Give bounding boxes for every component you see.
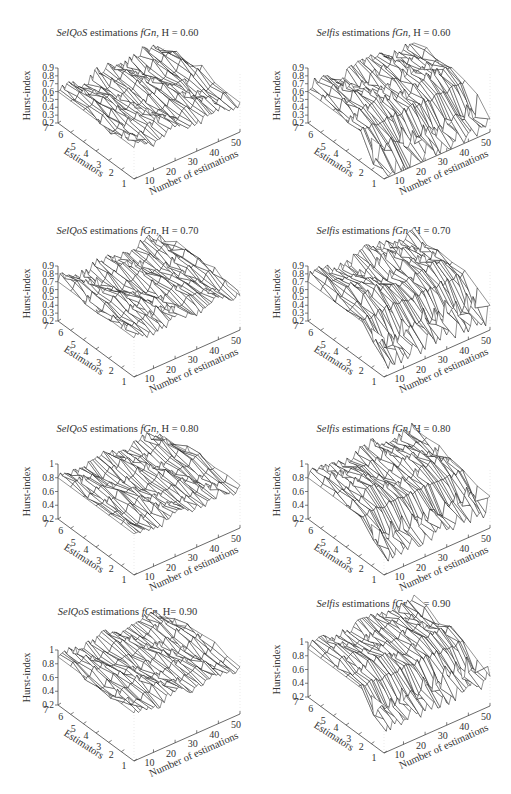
z-tick-label: 0.9 xyxy=(292,261,304,271)
estimator-tick-label: 2 xyxy=(109,365,114,376)
estimator-tick-label: 1 xyxy=(372,752,377,763)
estimator-tick-label: 6 xyxy=(58,129,63,140)
estimator-tick-label: 7 xyxy=(44,518,49,529)
estimator-tick-label: 6 xyxy=(58,525,63,536)
estimator-tick-label: 2 xyxy=(359,365,364,376)
estimator-tick-label: 1 xyxy=(372,178,377,189)
z-tick-label: 1 xyxy=(49,645,54,655)
chart-panel-selfis-090: Selfis estimations fGn, H = 0.90 0.20.40… xyxy=(256,594,511,792)
x-tick-label: 50 xyxy=(231,533,241,544)
z-axis-label: Hurst-index xyxy=(21,466,32,517)
surface-plot: 0.20.30.40.50.60.70.80.9Hurst-index76543… xyxy=(256,198,511,396)
estimator-tick-label: 2 xyxy=(109,167,114,178)
z-tick-label: 0.6 xyxy=(42,673,54,683)
surface-plot: 0.20.40.60.81Hurst-index7654321Estimator… xyxy=(256,594,511,792)
z-tick-label: 0.8 xyxy=(42,473,54,483)
z-axis-label: Hurst-index xyxy=(271,70,282,121)
surface-plot: 0.20.30.40.50.60.70.80.9Hurst-index76543… xyxy=(0,198,255,396)
estimator-tick-label: 7 xyxy=(44,320,49,331)
x-tick-label: 50 xyxy=(481,711,491,722)
z-axis-label: Hurst-index xyxy=(271,268,282,319)
z-tick-label: 0.8 xyxy=(292,651,304,661)
z-axis-label: Hurst-index xyxy=(21,70,32,121)
x-tick-label: 50 xyxy=(231,335,241,346)
estimator-tick-label: 2 xyxy=(359,741,364,752)
chart-panel-selfis-060: Selfis estimations fGn, H = 0.60 0.20.30… xyxy=(256,0,511,198)
estimator-tick-label: 6 xyxy=(308,129,313,140)
chart-panel-selfis-080: Selfis estimations fGn, H = 0.80 0.20.40… xyxy=(256,396,511,594)
x-axis-label: Number of estimations xyxy=(147,730,239,779)
estimator-tick-label: 6 xyxy=(58,327,63,338)
wireframe-surface xyxy=(58,45,240,148)
z-tick-label: 0.9 xyxy=(42,261,54,271)
estimator-tick-label: 2 xyxy=(109,563,114,574)
wireframe-surface xyxy=(308,595,490,731)
z-tick-label: 1 xyxy=(49,459,54,469)
surface-plot: 0.20.40.60.81Hurst-index7654321Estimator… xyxy=(256,396,511,594)
x-axis-label: Number of estimations xyxy=(397,722,489,771)
estimator-tick-label: 1 xyxy=(372,376,377,387)
z-tick-label: 0.9 xyxy=(42,63,54,73)
x-tick-label: 50 xyxy=(481,533,491,544)
estimator-tick-label: 2 xyxy=(109,749,114,760)
estimator-tick-label: 7 xyxy=(294,122,299,133)
z-tick-label: 0.6 xyxy=(42,487,54,497)
estimator-tick-label: 1 xyxy=(122,376,127,387)
estimator-tick-label: 1 xyxy=(122,760,127,771)
chart-panel-selqos-090: SelQoS estimations fGn, H= 0.90 0.20.40.… xyxy=(0,594,255,792)
estimator-tick-label: 1 xyxy=(122,178,127,189)
chart-panel-selqos-070: SelQoS estimations fGn, H = 0.70 0.20.30… xyxy=(0,198,255,396)
estimator-tick-label: 7 xyxy=(294,518,299,529)
estimator-tick-label: 6 xyxy=(308,525,313,536)
chart-panel-selqos-060: SelQoS estimations fGn, H = 0.60 0.20.30… xyxy=(0,0,255,198)
estimator-tick-label: 2 xyxy=(359,563,364,574)
z-tick-label: 0.8 xyxy=(292,473,304,483)
z-tick-label: 0.6 xyxy=(292,665,304,675)
estimator-tick-label: 1 xyxy=(122,574,127,585)
surface-plot: 0.20.30.40.50.60.70.80.9Hurst-index76543… xyxy=(256,0,511,198)
x-tick-label: 50 xyxy=(231,719,241,730)
chart-panel-selfis-070: Selfis estimations fGn, H = 0.70 0.20.30… xyxy=(256,198,511,396)
estimator-tick-label: 7 xyxy=(294,696,299,707)
z-axis-label: Hurst-index xyxy=(21,268,32,319)
x-axis-label: Number of estimations xyxy=(147,544,239,593)
x-tick-label: 50 xyxy=(481,137,491,148)
estimator-tick-label: 6 xyxy=(58,711,63,722)
z-tick-label: 0.4 xyxy=(292,678,304,688)
z-tick-label: 0.4 xyxy=(42,686,54,696)
surface-plot: 0.20.40.60.81Hurst-index7654321Estimator… xyxy=(0,396,255,594)
estimator-tick-label: 6 xyxy=(308,703,313,714)
wireframe-surface xyxy=(58,433,240,534)
z-axis-label: Hurst-index xyxy=(271,466,282,517)
estimator-tick-label: 7 xyxy=(44,122,49,133)
z-axis-label: Hurst-index xyxy=(21,652,32,703)
z-tick-label: 0.4 xyxy=(292,500,304,510)
estimator-tick-label: 6 xyxy=(308,327,313,338)
x-axis-label: Number of estimations xyxy=(397,544,489,593)
z-tick-label: 0.6 xyxy=(292,487,304,497)
x-tick-label: 50 xyxy=(231,137,241,148)
z-tick-label: 0.4 xyxy=(42,500,54,510)
chart-panel-selqos-080: SelQoS estimations fGn, H = 0.80 0.20.40… xyxy=(0,396,255,594)
wireframe-surface xyxy=(58,235,240,338)
z-tick-label: 0.8 xyxy=(42,659,54,669)
estimator-tick-label: 2 xyxy=(359,167,364,178)
x-axis-label: Number of estimations xyxy=(397,346,489,395)
x-axis-label: Number of estimations xyxy=(147,148,239,197)
surface-plot: 0.20.40.60.81Hurst-index7654321Estimator… xyxy=(0,594,255,792)
z-axis-label: Hurst-index xyxy=(271,644,282,695)
x-tick-label: 50 xyxy=(481,335,491,346)
estimator-tick-label: 7 xyxy=(44,704,49,715)
estimator-tick-label: 1 xyxy=(372,574,377,585)
z-tick-label: 1 xyxy=(299,637,304,647)
wireframe-surface xyxy=(58,612,240,713)
estimator-tick-label: 7 xyxy=(294,320,299,331)
x-axis-label: Number of estimations xyxy=(147,346,239,395)
surface-plot: 0.20.30.40.50.60.70.80.9Hurst-index76543… xyxy=(0,0,255,198)
z-tick-label: 0.9 xyxy=(292,63,304,73)
z-tick-label: 1 xyxy=(299,459,304,469)
